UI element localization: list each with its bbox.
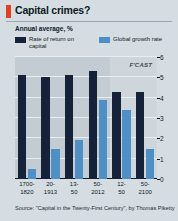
chart-legend: Rate of return on capital Global growth …	[15, 36, 175, 54]
source-note: Source: "Capital in the Twenty-First Cen…	[15, 205, 175, 211]
y-tick-label-2: 2	[160, 135, 170, 142]
bar	[41, 77, 50, 179]
bars-layer	[15, 57, 157, 179]
x-axis-label: 50- 2100	[133, 181, 157, 196]
y-tick-label-6: 6	[160, 54, 170, 61]
legend-item-global-growth: Global growth rate	[99, 36, 162, 43]
bar	[112, 92, 121, 179]
chart-card: Capital crimes? Annual average, % Rate o…	[0, 0, 178, 221]
plot-area: F'CAST	[15, 57, 157, 179]
y-tick-label-3: 3	[160, 115, 170, 122]
bar-group	[39, 57, 63, 179]
legend-item-rate-of-return: Rate of return on capital	[15, 36, 81, 50]
y-tick-label-0: 0	[160, 176, 170, 183]
bar	[65, 75, 74, 179]
title-divider	[6, 21, 172, 22]
page-title: Capital crimes?	[15, 4, 90, 16]
chart-subtitle: Annual average, %	[15, 25, 73, 32]
legend-swatch-rate-of-return	[15, 37, 26, 43]
y-tick-label-5: 5	[160, 74, 170, 81]
bar-group	[62, 57, 86, 179]
legend-label-rate-of-return: Rate of return on capital	[29, 36, 81, 50]
bar	[28, 169, 37, 179]
x-axis-label: 13- 50	[62, 181, 86, 196]
x-axis-label: 12- 50	[110, 181, 134, 196]
bar	[18, 75, 27, 179]
bar	[51, 149, 60, 180]
x-axis-labels: 1700- 182020- 191313- 5050- 201212- 5050…	[15, 181, 157, 201]
bar-group	[110, 57, 134, 179]
x-axis-label: 20- 1913	[39, 181, 63, 196]
bar	[75, 140, 84, 179]
bar	[99, 100, 108, 179]
legend-swatch-global-growth	[99, 37, 110, 43]
bar	[136, 92, 145, 179]
x-axis-label: 1700- 1820	[15, 181, 39, 196]
kicker-marker	[6, 5, 11, 18]
y-tick-label-4: 4	[160, 94, 170, 101]
bar	[122, 110, 131, 179]
x-axis-label: 50- 2012	[86, 181, 110, 196]
bar	[146, 149, 155, 180]
legend-label-global-growth: Global growth rate	[113, 36, 162, 43]
bar	[89, 71, 98, 179]
bar-group	[15, 57, 39, 179]
y-tick-label-1: 1	[160, 155, 170, 162]
bar-group	[86, 57, 110, 179]
bar-group	[133, 57, 157, 179]
